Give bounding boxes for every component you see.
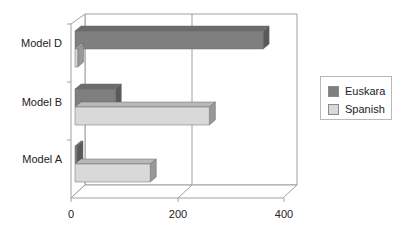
floor (71, 185, 297, 198)
legend-label-spanish: Spanish (345, 103, 385, 115)
category-label-model-b: Model B (2, 96, 62, 108)
x-tick-label-200: 200 (163, 208, 193, 220)
legend-swatch-euskara (328, 86, 339, 97)
legend-item-euskara: Euskara (328, 84, 385, 98)
bar-model-d-spanish-front (75, 49, 78, 67)
bar-model-b-spanish-front (75, 107, 209, 125)
legend-label-euskara: Euskara (345, 85, 385, 97)
x-tick-label-400: 400 (269, 208, 299, 220)
legend-item-spanish: Spanish (328, 102, 385, 116)
bar-model-d-euskara-top (75, 26, 269, 31)
legend: Euskara Spanish (320, 76, 392, 120)
bar-model-b-spanish-top (75, 102, 215, 107)
bar-model-b-euskara-top (75, 84, 121, 89)
bar-model-a-spanish-top (75, 159, 156, 164)
category-label-model-d: Model D (2, 37, 62, 49)
bar-model-a-euskara-front (75, 146, 77, 164)
bar-model-a-spanish-front (75, 164, 150, 182)
legend-swatch-spanish (328, 104, 339, 115)
bar-model-d-euskara-front (75, 31, 263, 49)
category-label-model-a: Model A (2, 153, 62, 165)
x-tick-label-0: 0 (56, 208, 86, 220)
